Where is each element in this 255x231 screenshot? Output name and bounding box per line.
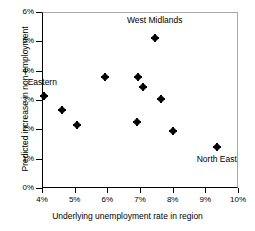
y-axis-tick <box>36 41 42 42</box>
y-axis-tick <box>36 71 42 72</box>
x-axis-tick <box>205 188 206 193</box>
y-axis-tick <box>36 12 42 13</box>
x-axis-title: Underlying unemployment rate in region <box>0 211 255 221</box>
data-point <box>214 144 220 150</box>
scatter-chart-figure: 0%1%2%3%4%5%6% 4%5%6%7%8%9%10% West Midl… <box>0 0 255 231</box>
x-axis-tick <box>42 188 43 193</box>
x-axis-tick-label: 5% <box>60 196 90 204</box>
x-axis-tick <box>75 188 76 193</box>
data-point <box>134 119 140 125</box>
data-point <box>170 128 176 134</box>
data-point <box>102 74 108 80</box>
data-point <box>135 74 141 80</box>
y-axis-tick <box>36 129 42 130</box>
x-axis-tick <box>107 188 108 193</box>
x-axis-tick-label: 10% <box>223 196 253 204</box>
x-axis-tick-label: 9% <box>190 196 220 204</box>
y-axis-tick <box>36 159 42 160</box>
data-point <box>41 93 47 99</box>
x-axis-tick-label: 7% <box>125 196 155 204</box>
x-axis-tick-label: 4% <box>27 196 57 204</box>
x-axis-tick <box>140 188 141 193</box>
y-axis-tick <box>36 100 42 101</box>
point-annotation: West Midlands <box>127 16 183 25</box>
x-axis-tick-label: 6% <box>92 196 122 204</box>
data-point <box>152 35 158 41</box>
data-point <box>74 122 80 128</box>
data-point <box>59 107 65 113</box>
y-axis-title: Predicted increase in non-employment <box>20 4 30 194</box>
point-annotation: Eastern <box>28 78 57 87</box>
x-axis-tick <box>238 188 239 193</box>
point-annotation: North East <box>197 155 237 164</box>
x-axis-tick <box>173 188 174 193</box>
x-axis-tick-label: 8% <box>158 196 188 204</box>
